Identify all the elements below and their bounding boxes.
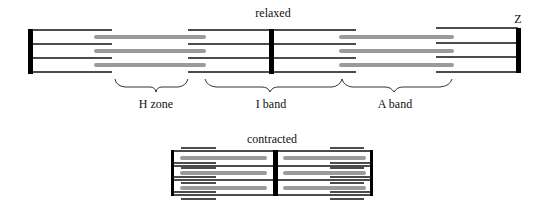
i-band-brace [205, 79, 342, 92]
h-zone-brace [115, 79, 188, 92]
braces [115, 79, 452, 92]
relaxed-title: relaxed [255, 6, 290, 20]
relaxed-sarcomere [28, 28, 521, 92]
h-zone-label: H zone [139, 97, 173, 111]
a-band-label: A band [378, 97, 412, 111]
contracted-sarcomere [171, 148, 373, 199]
contracted-z-disc-left [171, 150, 174, 196]
z-disc-right [516, 28, 521, 73]
contracted-z-disc-right [370, 150, 373, 196]
contracted-title: contracted [247, 132, 297, 146]
contracted-z-disc-center [273, 150, 278, 196]
z-label: Z [514, 12, 521, 26]
z-disc-left [28, 29, 33, 74]
z-disc-center [269, 29, 274, 74]
a-band-brace [342, 79, 452, 92]
i-band-label: I band [256, 97, 286, 111]
sarcomere-diagram: relaxed Z H zone I band A band contracte… [0, 0, 542, 219]
